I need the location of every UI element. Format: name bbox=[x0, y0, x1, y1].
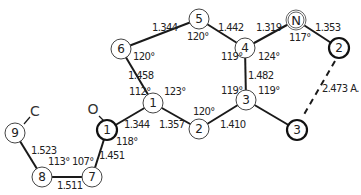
angle-1-right: 123° bbox=[164, 86, 186, 97]
length-1-1b: 1.344 bbox=[124, 119, 150, 130]
atom-2-bold: 2 bbox=[329, 38, 349, 58]
element-oxygen: O bbox=[87, 101, 98, 117]
molecular-diagram: 6 5 4 N 2 3 3 1 bbox=[0, 0, 361, 195]
svg-text:1: 1 bbox=[103, 123, 111, 137]
length-1b-7: 1.451 bbox=[99, 150, 125, 161]
length-9-8: 1.523 bbox=[31, 145, 57, 156]
svg-text:2: 2 bbox=[195, 122, 203, 136]
atom-5: 5 bbox=[189, 9, 209, 29]
svg-text:3: 3 bbox=[242, 93, 250, 107]
svg-text:3: 3 bbox=[293, 123, 301, 137]
svg-text:2: 2 bbox=[335, 41, 343, 55]
atom-2: 2 bbox=[189, 119, 209, 139]
atom-8: 8 bbox=[32, 167, 52, 187]
length-4-N: 1.319 bbox=[256, 22, 282, 33]
angle-4-left: 119° bbox=[221, 51, 243, 62]
length-hydrogen-bond: 2.473 A. bbox=[322, 83, 359, 94]
length-1-2: 1.357 bbox=[159, 119, 185, 130]
length-N-2: 1.353 bbox=[315, 22, 341, 33]
length-4-3: 1.482 bbox=[248, 70, 274, 81]
length-8-7: 1.511 bbox=[57, 180, 83, 191]
bond-angle-labels: 120° 120° 119° 124° 117° 112° 123° 119° … bbox=[48, 31, 311, 167]
atom-9: 9 bbox=[5, 123, 25, 143]
angle-5: 120° bbox=[187, 31, 209, 42]
svg-text:N: N bbox=[291, 13, 301, 28]
element-symbols: O C bbox=[30, 101, 98, 119]
atom-7: 7 bbox=[82, 167, 102, 187]
angle-2: 120° bbox=[193, 106, 215, 117]
svg-text:6: 6 bbox=[117, 42, 125, 56]
svg-text:9: 9 bbox=[11, 126, 19, 140]
angle-1-left: 112° bbox=[129, 86, 151, 97]
atom-nitrogen: N bbox=[286, 10, 306, 30]
angle-3-right: 119° bbox=[258, 85, 280, 96]
svg-text:1: 1 bbox=[149, 96, 157, 110]
angle-4-right: 124° bbox=[258, 51, 280, 62]
angle-1b: 118° bbox=[116, 136, 138, 147]
svg-text:7: 7 bbox=[88, 170, 96, 184]
svg-text:5: 5 bbox=[195, 12, 203, 26]
length-5-4: 1.442 bbox=[218, 22, 244, 33]
length-6-5: 1.344 bbox=[152, 22, 178, 33]
atom-1-bold: 1 bbox=[97, 120, 117, 140]
atom-3-bold: 3 bbox=[287, 120, 307, 140]
angle-6: 120° bbox=[133, 51, 155, 62]
element-carbon: C bbox=[30, 103, 40, 119]
svg-text:8: 8 bbox=[38, 170, 46, 184]
angle-8: 113° bbox=[48, 156, 70, 167]
atom-6: 6 bbox=[111, 39, 131, 59]
angle-3-left: 119° bbox=[221, 85, 243, 96]
length-6-1: 1.458 bbox=[128, 70, 154, 81]
length-2-3: 1.410 bbox=[220, 119, 246, 130]
angle-7: 107° bbox=[72, 156, 94, 167]
angle-N: 117° bbox=[289, 32, 311, 43]
bond-C-9 bbox=[24, 117, 30, 124]
